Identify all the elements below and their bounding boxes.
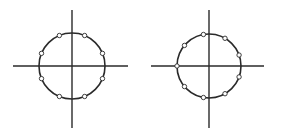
circle-point-marker xyxy=(82,33,86,37)
figure-canvas xyxy=(0,0,281,130)
circle-point-marker xyxy=(201,32,205,36)
circle-point-marker xyxy=(223,92,227,96)
right-circle-diagram xyxy=(151,10,264,128)
circle-point-marker xyxy=(201,95,205,99)
circle-point-marker xyxy=(57,94,61,98)
circle-point-marker xyxy=(182,84,186,88)
circle-point-marker xyxy=(100,51,104,55)
circle-point-marker xyxy=(57,33,61,37)
circle-point-marker xyxy=(100,76,104,80)
circle-point-marker xyxy=(175,64,179,68)
circle-point-marker xyxy=(82,94,86,98)
circle-point-marker xyxy=(237,75,241,79)
circle-point-marker xyxy=(39,76,43,80)
circle-point-marker xyxy=(237,53,241,57)
circle-point-marker xyxy=(223,36,227,40)
left-circle-diagram xyxy=(13,10,128,128)
circle-point-marker xyxy=(182,43,186,47)
circle-point-marker xyxy=(39,51,43,55)
